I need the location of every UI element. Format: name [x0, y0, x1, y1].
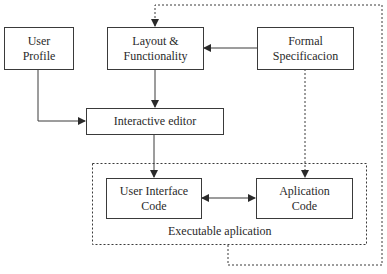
node-user-interface-code: User Interface Code	[106, 178, 202, 219]
node-user-profile: User Profile	[4, 27, 74, 70]
node-label: User	[28, 34, 51, 49]
node-label: Profile	[23, 49, 56, 64]
node-label: Code	[292, 199, 317, 214]
node-label: Interactive editor	[114, 114, 196, 129]
node-layout-functionality: Layout & Functionality	[107, 27, 204, 70]
node-label: Code	[141, 199, 166, 214]
node-label: Functionality	[124, 49, 188, 64]
edge-user-profile-to-editor	[38, 69, 85, 121]
node-label: Formal	[288, 34, 323, 49]
node-label: Specificacion	[273, 49, 338, 64]
node-label: User Interface	[120, 184, 188, 199]
node-interactive-editor: Interactive editor	[86, 108, 224, 135]
node-label: Aplication	[279, 184, 330, 199]
node-formal-specification: Formal Specificacion	[257, 27, 354, 70]
node-label: Layout &	[132, 34, 178, 49]
group-executable-label: Executable aplication	[168, 224, 272, 239]
node-application-code: Aplication Code	[256, 178, 353, 219]
